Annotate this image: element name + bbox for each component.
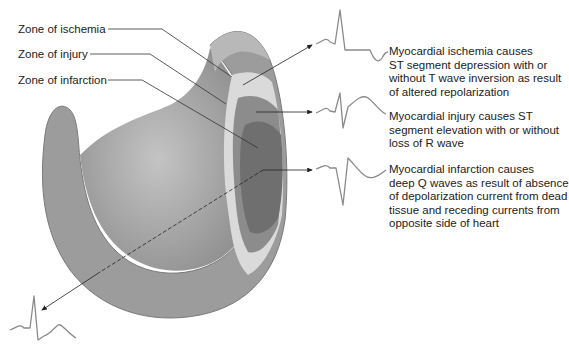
ecg-opposite-icon bbox=[10, 296, 76, 340]
ecg-infarction-icon bbox=[316, 158, 386, 205]
ecg-injury-icon bbox=[316, 93, 386, 128]
zone-ischemia-label: Zone of ischemia bbox=[18, 22, 106, 36]
infarction-description: Myocardial infarction causes deep Q wave… bbox=[389, 163, 569, 231]
zone-infarction-label: Zone of infarction bbox=[18, 73, 107, 87]
zone-infarction-region bbox=[240, 122, 283, 234]
ischemia-description: Myocardial ischemia causes ST segment de… bbox=[389, 45, 561, 99]
zone-injury-label: Zone of injury bbox=[18, 47, 88, 61]
ecg-ischemia-icon bbox=[316, 10, 388, 61]
injury-description: Myocardial injury causes ST segment elev… bbox=[389, 110, 559, 151]
